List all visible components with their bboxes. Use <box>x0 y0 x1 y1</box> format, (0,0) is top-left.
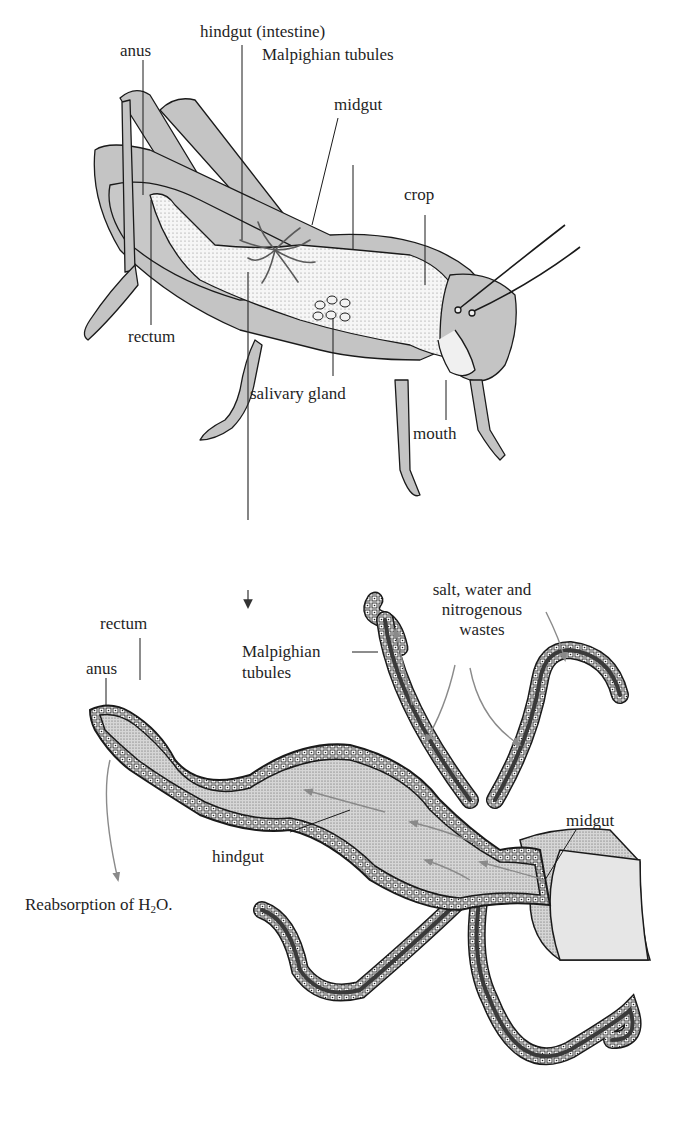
label-malpighian-bottom-2: tubules <box>242 664 291 682</box>
label-malpighian-bottom-1: Malpighian <box>242 643 320 661</box>
label-hindgut-bottom: hindgut <box>212 848 264 866</box>
label-wastes-3: wastes <box>412 621 552 639</box>
hindgut-detail-illustration <box>0 0 673 1125</box>
label-anus-bottom: anus <box>86 660 117 678</box>
label-wastes-2: nitrogenous <box>412 601 552 619</box>
label-rectum-bottom: rectum <box>100 615 147 633</box>
reabsorption-suffix: O. <box>156 895 173 914</box>
label-midgut-bottom: midgut <box>566 812 614 830</box>
label-wastes-1: salt, water and <box>412 581 552 599</box>
label-reabsorption: Reabsorption of H2O. <box>25 896 173 918</box>
reabsorption-text: Reabsorption of H <box>25 895 151 914</box>
